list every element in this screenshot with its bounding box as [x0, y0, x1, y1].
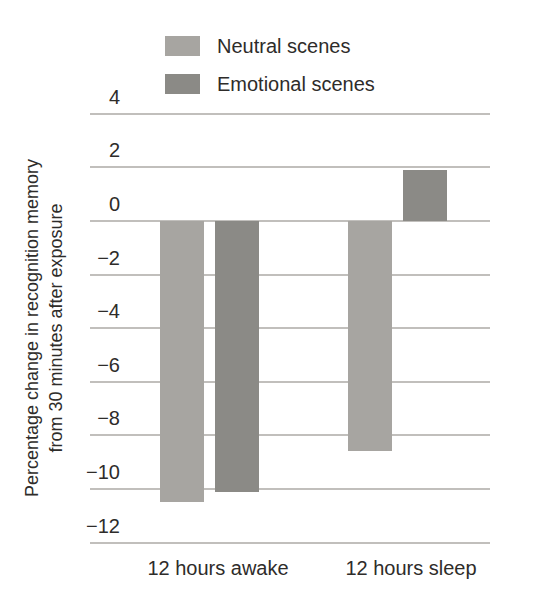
y-tick-label-4: 4 [60, 86, 120, 108]
y-tick-label--6: −6 [60, 354, 120, 376]
y-tick-label--8: −8 [60, 407, 120, 429]
gridline-y--2 [90, 274, 490, 276]
legend-label-emotional: Emotional scenes [217, 74, 375, 94]
bar-chart-figure: Neutral scenes Emotional scenes Percenta… [0, 0, 544, 609]
legend-swatch-neutral [165, 36, 200, 56]
legend-item-neutral: Neutral scenes [165, 36, 375, 56]
legend-item-emotional: Emotional scenes [165, 74, 375, 94]
y-tick-label--12: −12 [60, 515, 120, 537]
x-category-label-sleep: 12 hours sleep [321, 556, 501, 580]
legend-label-neutral: Neutral scenes [217, 36, 350, 56]
bar-emotional-scenes-12-hours-sleep [403, 170, 447, 221]
y-tick-label--10: −10 [60, 461, 120, 483]
bar-emotional-scenes-12-hours-awake [215, 221, 259, 492]
y-axis-label-line1: Percentage change in recognition memory [20, 118, 44, 538]
bar-neutral-scenes-12-hours-awake [160, 221, 204, 502]
bar-neutral-scenes-12-hours-sleep [348, 221, 392, 451]
gridline-y--4 [90, 327, 490, 329]
legend-swatch-emotional [165, 74, 200, 94]
gridline-y-2 [90, 166, 490, 168]
y-tick-label--2: −2 [60, 247, 120, 269]
gridline-y--10 [90, 488, 490, 490]
chart-legend: Neutral scenes Emotional scenes [165, 36, 375, 112]
gridline-y--6 [90, 381, 490, 383]
y-tick-label-2: 2 [60, 139, 120, 161]
y-tick-label-0: 0 [60, 193, 120, 215]
x-category-label-awake: 12 hours awake [128, 556, 308, 580]
y-tick-label--4: −4 [60, 300, 120, 322]
gridline-y--12 [90, 542, 490, 544]
gridline-y-4 [90, 113, 490, 115]
gridline-y--8 [90, 434, 490, 436]
